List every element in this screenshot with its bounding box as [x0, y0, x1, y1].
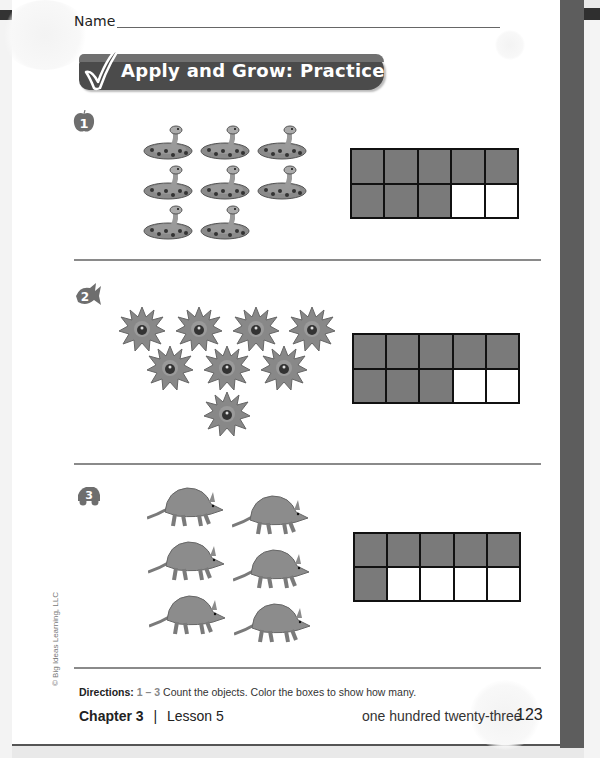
page-number-words: one hundred twenty-three	[362, 708, 522, 724]
svg-text:3: 3	[85, 489, 93, 502]
ten-frame-cell[interactable]	[351, 149, 384, 184]
ten-frame-cell[interactable]	[419, 369, 452, 404]
lesson-label: Lesson 5	[167, 708, 224, 724]
directions: Directions: 1 – 3 Count the objects. Col…	[79, 686, 416, 698]
ten-frame-cell[interactable]	[354, 567, 387, 601]
chapter-lesson: Chapter 3 | Lesson 5	[79, 708, 224, 724]
page-number: 123	[516, 706, 543, 724]
ten-frame-cell[interactable]	[453, 369, 486, 404]
section-title: Apply and Grow: Practice	[121, 60, 385, 81]
fish-badge-icon: 2	[74, 283, 102, 307]
car-badge-icon: 3	[76, 484, 102, 508]
ten-frame-cell[interactable]	[384, 184, 417, 219]
chapter-separator: |	[153, 708, 157, 724]
anemone-icon	[204, 392, 250, 436]
decorative-halo	[0, 0, 90, 70]
ten-frame-cell[interactable]	[485, 184, 518, 219]
ten-frame-cell[interactable]	[351, 184, 384, 219]
ten-frame-cell[interactable]	[486, 334, 519, 369]
apple-badge-icon: 1	[72, 110, 96, 134]
section-divider	[74, 667, 541, 669]
directions-range: 1 – 3	[137, 686, 160, 698]
armadillo-icon	[149, 592, 229, 636]
ten-frame-cell[interactable]	[485, 149, 518, 184]
directions-text: Count the objects. Color the boxes to sh…	[163, 686, 416, 698]
ten-frame-cell[interactable]	[420, 533, 453, 567]
ten-frame-cell[interactable]	[418, 184, 451, 219]
ten-frame-cell[interactable]	[419, 334, 452, 369]
svg-text:1: 1	[79, 116, 88, 131]
snake-icon	[256, 124, 310, 162]
snake-icon	[142, 124, 196, 162]
armadillo-icon	[233, 546, 313, 590]
ten-frame-cell[interactable]	[451, 184, 484, 219]
decorative-halo	[495, 30, 525, 60]
left-page-edge	[0, 0, 12, 758]
anemone-icon	[147, 346, 193, 390]
ten-frame-cell[interactable]	[386, 334, 419, 369]
ten-frame-cell[interactable]	[353, 334, 386, 369]
ten-frame-cell[interactable]	[387, 533, 420, 567]
name-input-line[interactable]	[117, 27, 500, 28]
ten-frame-1[interactable]	[350, 148, 519, 219]
anemone-icon	[261, 346, 307, 390]
ten-frame-cell[interactable]	[454, 533, 487, 567]
book-spine	[560, 0, 584, 748]
ten-frame-cell[interactable]	[454, 567, 487, 601]
snake-icon	[142, 204, 196, 242]
snake-icon	[256, 164, 310, 202]
ten-frame-cell[interactable]	[487, 567, 520, 601]
snake-icon	[199, 124, 253, 162]
armadillo-icon	[148, 538, 228, 582]
ten-frame-cell[interactable]	[418, 149, 451, 184]
anemone-icon	[204, 346, 250, 390]
copyright-notice: © Big Ideas Learning, LLC	[51, 592, 60, 686]
book-spine-top	[584, 8, 600, 20]
ten-frame-cell[interactable]	[487, 533, 520, 567]
ten-frame-cell[interactable]	[384, 149, 417, 184]
ten-frame-cell[interactable]	[387, 567, 420, 601]
ten-frame-cell[interactable]	[453, 334, 486, 369]
armadillo-icon	[232, 492, 312, 536]
ten-frame-cell[interactable]	[386, 369, 419, 404]
svg-text:2: 2	[81, 290, 89, 304]
ten-frame-cell[interactable]	[486, 369, 519, 404]
snake-icon	[199, 204, 253, 242]
background	[584, 20, 600, 758]
directions-label: Directions:	[79, 686, 134, 698]
ten-frame-2[interactable]	[352, 333, 520, 404]
anemone-icon	[289, 307, 335, 351]
chapter-label: Chapter 3	[79, 708, 144, 724]
anemone-icon	[176, 307, 222, 351]
ten-frame-cell[interactable]	[420, 567, 453, 601]
anemone-icon	[233, 307, 279, 351]
armadillo-icon	[147, 484, 227, 528]
name-label: Name	[74, 13, 115, 29]
ten-frame-cell[interactable]	[451, 149, 484, 184]
snake-icon	[199, 164, 253, 202]
section-divider	[74, 259, 541, 261]
armadillo-icon	[234, 600, 314, 644]
ten-frame-3[interactable]	[353, 532, 521, 602]
snake-icon	[142, 164, 196, 202]
ten-frame-cell[interactable]	[354, 533, 387, 567]
ten-frame-cell[interactable]	[353, 369, 386, 404]
section-divider	[74, 463, 541, 465]
anemone-icon	[119, 307, 165, 351]
